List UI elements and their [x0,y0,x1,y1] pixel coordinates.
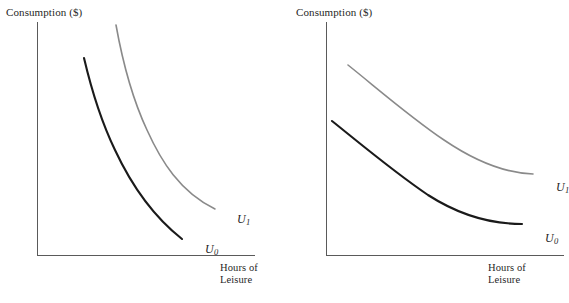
curve-label-u0-left-sub: 0 [214,247,218,257]
x-axis-label-right-line2: Leisure [488,274,520,286]
curve-u0-left [84,58,182,239]
panel-right-plot [282,0,564,303]
y-axis-label-left: Consumption ($) [6,6,82,19]
panel-left-plot [0,0,282,303]
curve-label-u0-right-base: U [545,231,554,245]
x-axis-label-left-line1: Hours of [220,262,258,274]
x-axis-label-right-line1: Hours of [488,262,526,274]
panel-left: Consumption ($) Hours of Leisure U0 U1 [0,0,282,303]
curve-label-u1-left: U1 [219,199,250,241]
curve-label-u1-left-base: U [237,212,246,226]
curve-label-u0-right: U0 [527,218,558,260]
curve-u0-right [332,121,522,224]
curve-label-u1-left-sub: 1 [246,217,250,227]
curve-label-u1-right-base: U [556,180,565,194]
curve-label-u0-left-base: U [205,242,214,256]
curve-label-u0-left: U0 [187,229,218,271]
y-axis-label-right: Consumption ($) [296,6,372,19]
curve-label-u0-right-sub: 0 [554,236,558,246]
panel-right: Consumption ($) Hours of Leisure U0 U1 [282,0,564,303]
curve-label-u1-right-sub: 1 [565,185,569,195]
curve-label-u1-right: U1 [538,167,569,209]
x-axis-label-left-line2: Leisure [220,274,252,286]
curve-u1-right [348,65,533,174]
